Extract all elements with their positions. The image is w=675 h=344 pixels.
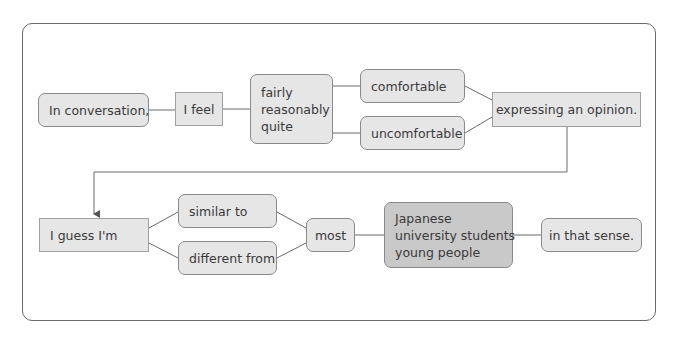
phrase-text: I feel [184, 101, 215, 118]
option-young-people: young people [395, 244, 480, 261]
option-fairly: fairly [261, 84, 293, 101]
phrase-text: in that sense. [549, 227, 634, 244]
phrase-i-guess-im: I guess I'm [39, 218, 149, 252]
option-reasonably: reasonably [261, 101, 330, 118]
phrase-text: most [315, 227, 346, 244]
phrase-text: uncomfortable [371, 125, 462, 142]
phrase-i-feel: I feel [175, 92, 223, 126]
phrase-text: different from [189, 250, 275, 267]
phrase-most: most [306, 218, 355, 252]
phrase-text: I guess I'm [50, 227, 118, 244]
option-quite: quite [261, 118, 293, 135]
phrase-in-that-sense: in that sense. [541, 218, 642, 252]
option-different-from: different from [178, 241, 277, 275]
group-options: Japanese university students young peopl… [384, 202, 513, 268]
phrase-expressing-an-opinion: expressing an opinion. [492, 92, 641, 127]
adverb-options: fairly reasonably quite [250, 74, 333, 144]
option-japanese: Japanese [395, 210, 452, 227]
phrase-text: In conversation, [49, 102, 149, 119]
option-comfortable: comfortable [360, 69, 465, 103]
option-university-students: university students [395, 227, 515, 244]
connector-lines [0, 0, 675, 344]
option-similar-to: similar to [178, 194, 277, 228]
phrase-in-conversation: In conversation, [38, 93, 149, 127]
phrase-text: comfortable [371, 78, 447, 95]
option-uncomfortable: uncomfortable [360, 116, 465, 150]
phrase-text: similar to [189, 203, 247, 220]
phrase-text: expressing an opinion. [496, 101, 637, 118]
